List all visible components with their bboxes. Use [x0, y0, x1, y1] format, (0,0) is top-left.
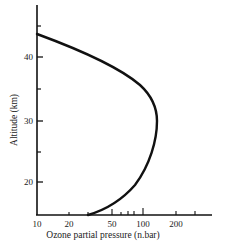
- y-axis-title: Altitude (km): [9, 94, 20, 146]
- y-tick-label-20: 20: [24, 177, 34, 187]
- x-tick-label-50: 50: [108, 219, 118, 229]
- x-tick-label-20: 20: [65, 219, 75, 229]
- x-tick-label-100: 100: [136, 219, 150, 229]
- x-tick-label-200: 200: [169, 219, 183, 229]
- y-major-ticks: [37, 57, 43, 182]
- y-tick-label-30: 30: [24, 116, 34, 126]
- x-axis-title: Ozone partial pressure (n.bar): [46, 230, 159, 241]
- ozone-altitude-chart: 40 30 20 10 20 50 100 200 Ozone partial …: [0, 0, 236, 250]
- y-tick-label-40: 40: [24, 52, 34, 62]
- x-tick-label-10: 10: [33, 219, 43, 229]
- ozone-profile-curve: [37, 34, 157, 215]
